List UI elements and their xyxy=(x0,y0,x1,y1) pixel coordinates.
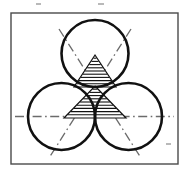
geometry-canvas xyxy=(0,0,190,175)
technical-drawing-figure xyxy=(0,0,190,175)
speck-top-mid xyxy=(98,3,104,5)
speck-top-left xyxy=(36,3,41,5)
speck-right-low xyxy=(166,143,171,145)
